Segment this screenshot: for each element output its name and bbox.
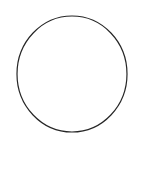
caption-area: [0, 135, 145, 185]
figure-canvas: [0, 0, 145, 185]
